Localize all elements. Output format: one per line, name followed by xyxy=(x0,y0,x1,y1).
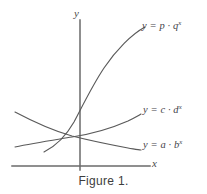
x-axis-label: x xyxy=(152,158,157,169)
curve-bottom-ab xyxy=(15,112,141,150)
figure-caption: Figure 1. xyxy=(0,175,207,187)
curve-label-pq-exponent: x xyxy=(178,19,181,26)
curve-label-pq-text: y = p · q xyxy=(142,20,178,31)
curve-middle-cd xyxy=(15,114,141,147)
curve-label-ab-text: y = a · b xyxy=(143,139,179,150)
curve-label-pq: y = p · qx xyxy=(142,21,181,32)
curve-label-cd-exponent: x xyxy=(179,103,182,110)
figure-container: y x y = p · qx y = c · dx y = a · bx Fig… xyxy=(0,0,207,194)
curve-label-cd: y = c · dx xyxy=(143,105,182,116)
curve-label-cd-text: y = c · d xyxy=(143,104,179,115)
y-axis-label: y xyxy=(74,8,79,19)
curve-label-ab-exponent: x xyxy=(179,138,182,145)
curve-top-pq xyxy=(44,27,145,152)
curve-label-ab: y = a · bx xyxy=(143,140,182,151)
